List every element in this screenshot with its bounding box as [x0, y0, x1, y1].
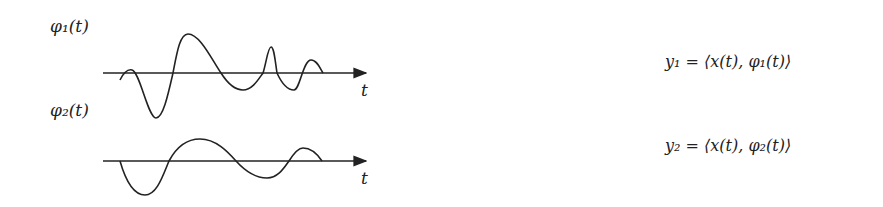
waveform-2: [103, 139, 366, 195]
waveform-diagram: [0, 0, 883, 207]
axis-label-t1: t: [361, 80, 368, 100]
phi1-curve: [120, 34, 323, 118]
equation-y2: y₂ = ⟨x(t), φ₂(t)⟩: [665, 136, 791, 155]
phi2-curve: [120, 139, 322, 195]
phi1-label: φ₁(t): [50, 16, 89, 36]
axis-label-t2: t: [361, 168, 368, 188]
phi2-label: φ₂(t): [50, 100, 89, 120]
waveform-1: [103, 34, 366, 118]
equation-y1: y₁ = ⟨x(t), φ₁(t)⟩: [665, 52, 791, 71]
